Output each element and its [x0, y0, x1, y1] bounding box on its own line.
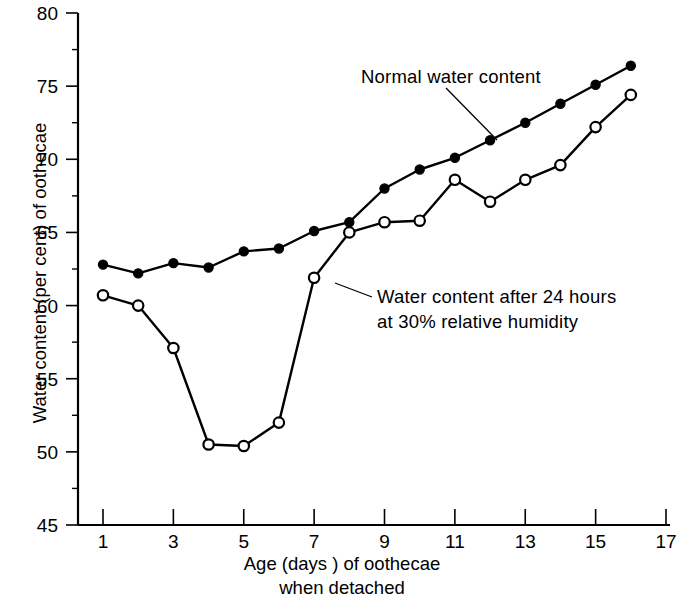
- y-axis-ticks: [66, 13, 78, 525]
- data-point: [626, 61, 635, 70]
- x-tick-label: 3: [168, 531, 179, 552]
- data-point: [415, 216, 425, 226]
- data-series-group: [98, 61, 636, 451]
- annotation-dry-text-line2: at 30% relative humidity: [377, 309, 616, 334]
- data-point: [239, 247, 248, 256]
- data-point: [274, 417, 284, 427]
- series-markers-normal-water-content: [98, 61, 635, 278]
- axes: 4550556065707580 1357911131517: [37, 3, 677, 552]
- data-point: [520, 175, 530, 185]
- data-point: [98, 260, 107, 269]
- data-point: [204, 263, 213, 272]
- data-point: [626, 90, 636, 100]
- x-axis-ticks: [103, 509, 666, 525]
- data-point: [98, 290, 108, 300]
- x-tick-label: 7: [309, 531, 320, 552]
- series-line-dried-water-content: [103, 95, 631, 446]
- annotation-dry-text-line1: Water content after 24 hours: [377, 284, 616, 309]
- annotation-normal-water-content: Normal water content: [361, 64, 541, 89]
- x-tick-label: 11: [445, 531, 465, 552]
- data-point: [485, 197, 495, 207]
- chart-container: 4550556065707580 1357911131517 Normal wa…: [0, 0, 684, 615]
- annotation-leader-lines: [335, 88, 497, 297]
- data-point: [555, 160, 565, 170]
- x-tick-label: 1: [98, 531, 109, 552]
- y-axis-title: Water content (per cent) of oothecae: [29, 63, 51, 483]
- y-tick-label: 45: [37, 515, 58, 536]
- x-tick-label: 5: [238, 531, 249, 552]
- data-point: [415, 165, 424, 174]
- x-tick-label: 13: [515, 531, 536, 552]
- data-point: [310, 226, 319, 235]
- data-point: [556, 99, 565, 108]
- data-point: [344, 227, 354, 237]
- y-tick-label: 80: [37, 3, 58, 24]
- data-point: [345, 218, 354, 227]
- data-point: [169, 259, 178, 268]
- annotation-normal-text: Normal water content: [361, 66, 541, 87]
- data-point: [450, 175, 460, 185]
- data-point: [168, 343, 178, 353]
- data-point: [380, 184, 389, 193]
- x-tick-label: 17: [655, 531, 676, 552]
- data-point: [450, 153, 459, 162]
- data-point: [309, 273, 319, 283]
- x-axis-tick-labels: 1357911131517: [98, 531, 677, 552]
- leader-line-normal: [446, 88, 497, 140]
- data-point: [134, 269, 143, 278]
- annotation-dry-water-content: Water content after 24 hours at 30% rela…: [377, 284, 616, 334]
- x-axis-title-line1: Age (days ) of oothecae: [0, 552, 684, 576]
- x-tick-label: 15: [585, 531, 606, 552]
- x-axis-title-line2: when detached: [0, 576, 684, 600]
- data-point: [203, 439, 213, 449]
- data-point: [590, 122, 600, 132]
- x-axis-title: Age (days ) of oothecae when detached: [0, 552, 684, 600]
- data-point: [379, 217, 389, 227]
- data-point: [521, 118, 530, 127]
- data-point: [239, 441, 249, 451]
- x-tick-label: 9: [379, 531, 390, 552]
- data-point: [591, 80, 600, 89]
- data-point: [274, 244, 283, 253]
- series-markers-dried-water-content: [98, 90, 636, 452]
- data-point: [133, 300, 143, 310]
- leader-line-dry: [335, 283, 372, 297]
